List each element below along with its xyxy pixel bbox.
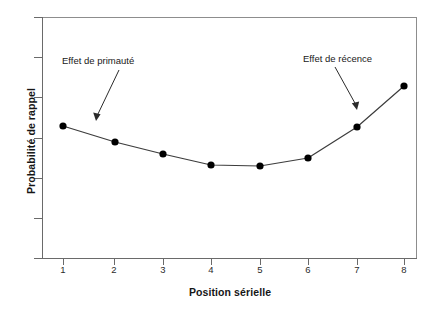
annotation-arrows: [93, 67, 359, 121]
recency-arrow-icon: [335, 67, 359, 110]
x-tick-label-2: 2: [103, 264, 125, 275]
x-tick-label-6: 6: [297, 264, 319, 275]
data-point: [304, 154, 311, 161]
x-axis-label: Position sérielle: [42, 286, 418, 298]
data-point: [353, 123, 360, 130]
primacy-effect-annotation: Effet de primauté: [62, 55, 134, 66]
data-point: [111, 138, 118, 145]
primacy-arrow-icon: [93, 70, 119, 121]
data-point: [207, 161, 214, 168]
data-point: [400, 82, 407, 89]
x-tick-label-8: 8: [393, 264, 415, 275]
x-tick-label-3: 3: [152, 264, 174, 275]
data-point-markers: [59, 82, 407, 169]
data-point: [159, 150, 166, 157]
recency-effect-annotation: Effet de récence: [303, 53, 372, 64]
x-tick-label-1: 1: [52, 264, 74, 275]
data-point: [256, 162, 263, 169]
data-line: [63, 86, 404, 166]
x-tick-label-5: 5: [249, 264, 271, 275]
serial-position-curve-figure: Probabilité de rappel Position sérielle …: [0, 0, 432, 314]
data-point: [59, 122, 66, 129]
x-tick-label-4: 4: [200, 264, 222, 275]
x-tick-label-7: 7: [346, 264, 368, 275]
y-axis-label: Probabilité de rappel: [25, 46, 37, 236]
